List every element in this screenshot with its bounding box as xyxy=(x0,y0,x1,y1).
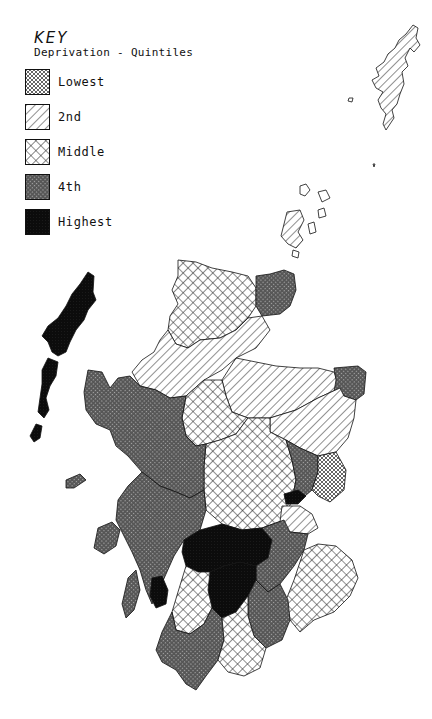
legend-label: Highest xyxy=(58,215,113,229)
region-orkney xyxy=(281,184,330,258)
legend-item-highest: Highest xyxy=(25,204,193,239)
legend: KEY Deprivation - Quintiles Lowest 2nd M… xyxy=(22,30,193,239)
swatch-highest-icon xyxy=(25,209,50,235)
legend-label: Lowest xyxy=(58,75,105,89)
swatch-lowest-icon xyxy=(25,69,50,95)
legend-subtitle: Deprivation - Quintiles xyxy=(34,46,193,60)
region-mull xyxy=(94,522,120,554)
region-shetland xyxy=(348,25,420,167)
swatch-2nd-icon xyxy=(25,104,50,130)
region-coll-tiree xyxy=(66,474,86,488)
legend-item-lowest: Lowest xyxy=(25,64,193,99)
legend-item-middle: Middle xyxy=(25,134,193,169)
region-western-isles xyxy=(30,272,96,442)
swatch-4th-icon xyxy=(25,174,50,200)
legend-title: KEY xyxy=(34,30,193,46)
legend-label: 2nd xyxy=(58,110,81,124)
legend-item-4th: 4th xyxy=(25,169,193,204)
region-caithness xyxy=(256,270,296,316)
legend-item-2nd: 2nd xyxy=(25,99,193,134)
region-jura xyxy=(122,570,140,618)
legend-label: 4th xyxy=(58,180,81,194)
swatch-middle-icon xyxy=(25,139,50,165)
legend-label: Middle xyxy=(58,145,105,159)
